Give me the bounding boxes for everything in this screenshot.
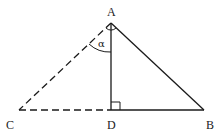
angle-label-alpha: α [98, 38, 105, 49]
point-label-b: B [206, 118, 214, 132]
segment-ac-dashed [19, 23, 111, 110]
right-angle-marker-d [111, 102, 120, 110]
point-label-a: A [107, 5, 116, 19]
triangle-diagram: A B C D α [0, 0, 217, 136]
segment-ab [111, 23, 204, 110]
point-label-c: C [6, 118, 14, 132]
point-label-d: D [107, 118, 116, 132]
